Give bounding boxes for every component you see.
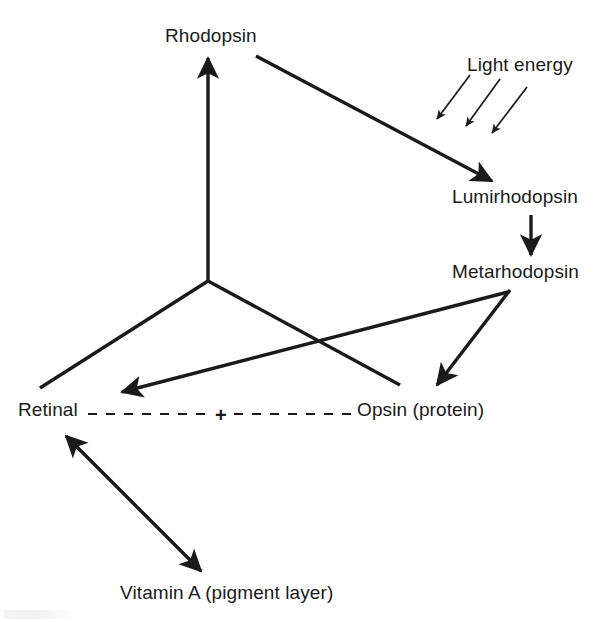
plus-sign: + [215,405,227,425]
node-label-rhodopsin: Rhodopsin [165,26,257,45]
edge-retinal-vitamin-a [66,436,201,571]
node-label-metarhodopsin: Metarhodopsin [452,262,579,281]
node-label-lumirhodopsin: Lumirhodopsin [452,187,578,206]
edge-opsin-to-junction [208,281,400,385]
edge-metarhodopsin-to-opsin [437,290,510,385]
node-label-retinal: Retinal [18,400,78,419]
edge-retinal-to-junction [40,281,208,388]
diagram-canvas [0,0,612,622]
node-label-light-energy: Light energy [467,55,573,74]
light-ray-icon-1 [437,75,470,119]
light-ray-icon-3 [492,87,527,133]
rhodopsin-cycle-figure: Rhodopsin Light energy Lumirhodopsin Met… [0,0,612,622]
node-label-opsin: Opsin (protein) [357,400,484,419]
light-ray-icon-2 [466,79,500,126]
edge-rhodopsin-to-lumirhodopsin [256,56,492,181]
node-label-vitamin-a: Vitamin A (pigment layer) [120,583,333,602]
edge-metarhodopsin-to-retinal [122,292,508,392]
